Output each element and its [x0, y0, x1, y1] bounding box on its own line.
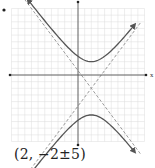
hyperbola-graph: x — [0, 0, 155, 168]
x-axis-label: x — [150, 71, 154, 78]
axes — [9, 1, 148, 147]
asymptotes — [21, 0, 141, 168]
foci-caption: (2, −2±5) — [14, 146, 86, 162]
corner-dot-marker — [2, 8, 5, 11]
